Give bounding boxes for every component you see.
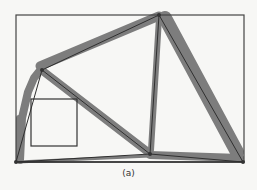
node-E	[241, 160, 245, 164]
node-D	[148, 152, 152, 156]
truss-topology-diagram	[0, 0, 257, 190]
node-A	[14, 160, 18, 164]
node-B	[40, 68, 44, 72]
node-C	[157, 13, 161, 17]
figure-caption: (a)	[0, 168, 257, 178]
